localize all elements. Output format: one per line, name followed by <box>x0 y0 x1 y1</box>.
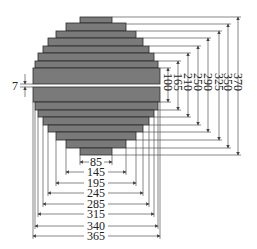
bar-step-5b <box>43 117 149 125</box>
dim-label-370: 370 <box>231 73 245 91</box>
gap-label: 7 <box>12 79 18 93</box>
bar-step-2b <box>66 140 126 148</box>
gap-dimension <box>20 74 33 97</box>
horizontal-dimension-labels: 85 145 195 245 285 315 340 365 <box>87 155 105 243</box>
lower-step-bars <box>33 87 160 155</box>
bar-step-7b <box>35 102 158 110</box>
bar-step-6 <box>38 53 154 61</box>
bar-step-3b <box>56 132 136 140</box>
stepped-core-cross-section-diagram: 7 100 165 210 250 290 325 350 370 <box>0 0 257 249</box>
bar-step-1 <box>80 17 112 23</box>
bar-step-3 <box>56 31 136 38</box>
bar-step-5 <box>43 46 149 53</box>
bar-step-6b <box>38 110 154 117</box>
bar-step-1b <box>80 148 112 155</box>
upper-step-bars <box>33 17 160 84</box>
bar-step-8b <box>33 87 160 102</box>
dim-label-365: 365 <box>87 229 105 243</box>
bar-step-2 <box>66 23 126 31</box>
bar-step-4 <box>48 38 143 46</box>
bar-step-4b <box>48 125 143 132</box>
bar-step-8 <box>33 68 160 84</box>
vertical-dimension-labels: 100 165 210 250 290 325 350 370 <box>161 73 245 91</box>
bar-step-7 <box>35 61 158 68</box>
